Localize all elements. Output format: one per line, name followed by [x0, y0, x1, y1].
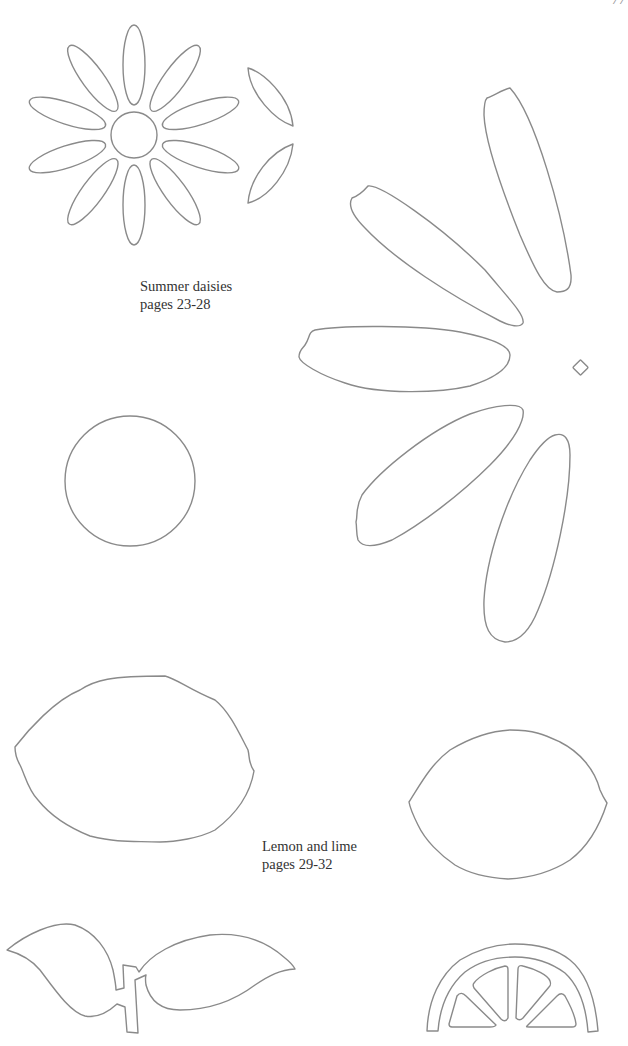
- slice-segment: [516, 966, 551, 1020]
- leaf-pair-with-stem: [7, 924, 295, 1033]
- small-diamond: [573, 360, 589, 376]
- large-petals: [299, 88, 571, 642]
- caption-pages: pages 23-28: [140, 295, 232, 313]
- caption-title: Summer daisies: [140, 277, 232, 295]
- daisy-petal: [26, 91, 109, 137]
- circle-template: [65, 416, 195, 546]
- template-page: 77: [0, 0, 628, 1046]
- lemon-outline: [15, 676, 254, 842]
- large-petal: [351, 186, 524, 326]
- lime-outline: [409, 730, 607, 879]
- citrus-half-slice: [427, 944, 598, 1032]
- caption-title: Lemon and lime: [262, 837, 357, 855]
- slice-segment: [527, 994, 576, 1027]
- large-petal: [484, 434, 570, 642]
- slice-segment: [449, 993, 496, 1027]
- daisy-petal: [123, 165, 145, 245]
- daisy-petal: [26, 134, 109, 180]
- daisy-petal: [159, 134, 242, 180]
- daisy-petal: [123, 25, 145, 105]
- small-leaf-upper: [248, 68, 293, 126]
- large-petal: [356, 405, 523, 545]
- daisy-petal: [60, 153, 125, 231]
- daisy-petal: [143, 153, 208, 231]
- large-petal: [484, 88, 571, 292]
- caption-summer-daisies: Summer daisies pages 23-28: [140, 277, 232, 313]
- template-artwork: [0, 0, 628, 1046]
- caption-lemon-and-lime: Lemon and lime pages 29-32: [262, 837, 357, 873]
- small-leaf-lower: [248, 144, 293, 203]
- daisy-petal: [159, 91, 242, 137]
- daisy-petal: [143, 40, 208, 118]
- slice-rind: [427, 944, 598, 1032]
- daisy-petal: [60, 40, 125, 118]
- slice-segment: [473, 966, 508, 1021]
- large-petal: [299, 326, 510, 391]
- caption-pages: pages 29-32: [262, 855, 357, 873]
- daisy-center: [111, 112, 157, 158]
- daisy-flower: [26, 25, 242, 245]
